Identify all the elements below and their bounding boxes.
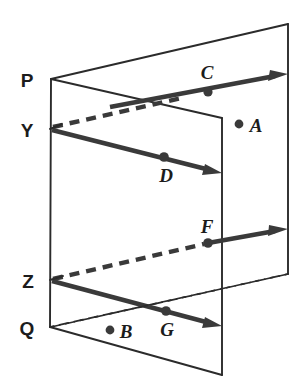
ray-y-hidden-line bbox=[53, 98, 182, 127]
ray-y-through-d bbox=[50, 124, 222, 175]
front-plane-left-edge bbox=[50, 79, 51, 327]
ray-y-through-d-arrowhead bbox=[202, 164, 222, 175]
front-plane-top-edge bbox=[51, 79, 222, 118]
point-label-b: B bbox=[119, 321, 133, 342]
point-a bbox=[235, 120, 244, 129]
front-plane-bottom-edge bbox=[50, 327, 222, 375]
vertex-label-y: Y bbox=[21, 120, 34, 141]
ray-through-c bbox=[110, 70, 288, 107]
back-plane-top-edge bbox=[51, 24, 288, 79]
ray-z-through-f bbox=[53, 225, 288, 279]
ray-through-c-line bbox=[110, 76, 275, 107]
geometry-figure: P Y Z Q A B C D F G bbox=[0, 0, 308, 392]
ray-y-through-d-line bbox=[52, 130, 206, 169]
ray-through-c-arrowhead bbox=[268, 70, 288, 81]
ray-z-through-f-visible-line bbox=[208, 231, 275, 243]
point-label-f: F bbox=[200, 216, 214, 237]
point-label-c: C bbox=[201, 62, 214, 83]
point-label-a: A bbox=[249, 115, 263, 136]
vertex-label-p: P bbox=[21, 70, 34, 91]
ray-z-through-f-arrowhead bbox=[268, 225, 288, 236]
vertex-label-z: Z bbox=[22, 271, 34, 292]
point-label-g: G bbox=[160, 319, 174, 340]
ray-y-hidden bbox=[53, 98, 182, 127]
point-label-d: D bbox=[158, 165, 173, 186]
ray-z-through-f-hidden-line bbox=[53, 244, 204, 279]
point-c-dot bbox=[203, 87, 212, 96]
point-d-dot bbox=[159, 152, 169, 162]
point-a-dot bbox=[235, 120, 244, 129]
figure-canvas: P Y Z Q A B C D F G bbox=[0, 0, 308, 392]
vertex-label-q: Q bbox=[20, 318, 35, 339]
ray-z-through-g bbox=[50, 276, 222, 328]
point-b-dot bbox=[106, 326, 115, 335]
point-f-dot bbox=[203, 238, 213, 248]
point-g-dot bbox=[161, 306, 171, 316]
ray-z-through-g-arrowhead bbox=[202, 317, 222, 328]
point-b bbox=[106, 326, 115, 335]
ray-z-through-g-line bbox=[52, 281, 206, 322]
